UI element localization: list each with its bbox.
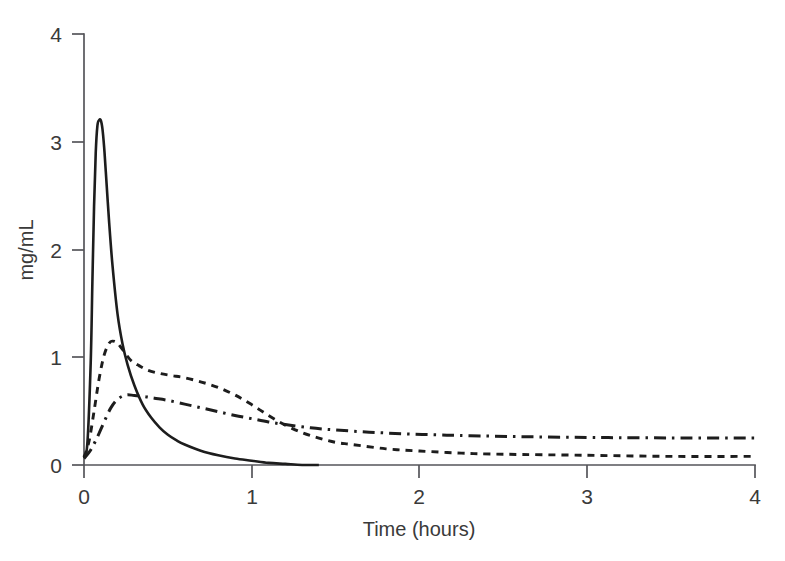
y-axis-title: mg/mL bbox=[15, 219, 37, 280]
x-tick-label-1: 1 bbox=[246, 485, 258, 508]
line-chart: 4 3 2 1 0 0 1 2 3 4 Time (hours) mg/mL bbox=[0, 0, 785, 561]
series-line-formulation-2 bbox=[84, 341, 755, 457]
y-tick-label-3: 3 bbox=[50, 131, 62, 154]
x-tick-label-3: 3 bbox=[581, 485, 593, 508]
series-line-formulation-3 bbox=[84, 395, 755, 459]
y-tick-label-0: 0 bbox=[50, 454, 62, 477]
y-tick-label-1: 1 bbox=[50, 346, 62, 369]
chart-figure: 4 3 2 1 0 0 1 2 3 4 Time (hours) mg/mL bbox=[0, 0, 785, 561]
series-group bbox=[84, 119, 755, 465]
y-axis-ticks bbox=[72, 34, 84, 465]
series-line-formulation-1 bbox=[84, 119, 319, 465]
x-tick-label-2: 2 bbox=[413, 485, 425, 508]
x-tick-label-4: 4 bbox=[749, 485, 761, 508]
x-tick-label-0: 0 bbox=[78, 485, 90, 508]
x-axis-title: Time (hours) bbox=[363, 518, 476, 540]
y-tick-label-4: 4 bbox=[50, 23, 62, 46]
y-tick-label-2: 2 bbox=[50, 239, 62, 262]
x-axis-ticks bbox=[84, 465, 755, 478]
